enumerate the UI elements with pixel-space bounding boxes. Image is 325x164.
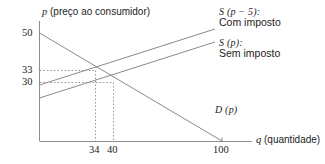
y-axis-title: p (preço ao consumidor) (42, 6, 150, 18)
chart-figure: p (preço ao consumidor) q (quantidade) 5… (0, 0, 325, 164)
supply-no-tax-label-sub: Sem imposto (219, 48, 280, 59)
supply-with-tax-label-sub: Com imposto (219, 17, 281, 28)
demand-label: D (p) (215, 105, 237, 116)
x-tick-label-40: 40 (107, 144, 118, 155)
supply-no-tax-label: S (p): Sem imposto (219, 38, 280, 59)
y-tick-label-30: 30 (22, 76, 33, 87)
y-tick-label-50: 50 (22, 27, 33, 38)
supply-with-tax-label: S (p − 5): Com imposto (219, 7, 281, 28)
y-tick-label-33: 33 (22, 64, 33, 75)
x-tick-label-100: 100 (213, 144, 229, 155)
y-axis-title-text: (preço ao consumidor) (47, 6, 150, 17)
x-axis-title-text: (quantidade) (261, 134, 320, 145)
demand-curve (40, 33, 223, 141)
supply-with-tax-curve (40, 29, 216, 85)
demand-label-math: D (p) (215, 104, 237, 115)
x-tick-label-34: 34 (89, 144, 100, 155)
x-axis-title: q (quantidade) (256, 134, 320, 146)
